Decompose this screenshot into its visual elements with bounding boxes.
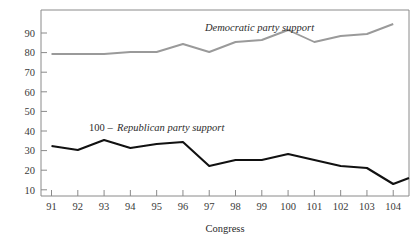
- line-chart-canvas: 90 80 70 60 50 40 30 20 10 9192939495969…: [0, 0, 415, 245]
- x-axis-title: Congress: [205, 223, 244, 234]
- x-axis-tick-labels: 919293949596979899100101102103104: [46, 201, 402, 212]
- y-axis-ticks: [41, 33, 47, 190]
- x-tick-label: 100: [280, 201, 296, 212]
- y-tick-label: 60: [25, 87, 36, 98]
- y-tick-label: 30: [25, 145, 36, 156]
- y-tick-label: 10: [25, 185, 36, 196]
- x-tick-label: 101: [306, 201, 322, 212]
- plot-frame: [41, 10, 409, 196]
- x-tick-label: 96: [178, 201, 189, 212]
- x-tick-label: 102: [333, 201, 349, 212]
- x-axis-ticks: [52, 190, 394, 196]
- x-tick-label: 99: [257, 201, 268, 212]
- x-tick-label: 98: [230, 201, 241, 212]
- y-axis-tick-labels: 90 80 70 60 50 40 30 20 10: [25, 28, 36, 196]
- republican-series-label: 100 – Republican party support: [89, 122, 225, 133]
- x-tick-label: 94: [125, 201, 136, 212]
- x-tick-label: 104: [385, 201, 402, 212]
- y-tick-label: 50: [25, 106, 36, 117]
- republican-series-label-name: Republican party support: [116, 122, 225, 133]
- x-tick-label: 95: [151, 201, 162, 212]
- x-tick-label: 92: [73, 201, 84, 212]
- democratic-series-label: Democratic party support: [204, 22, 315, 33]
- y-tick-label: 20: [25, 165, 36, 176]
- y-tick-label: 90: [25, 28, 36, 39]
- x-tick-label: 103: [359, 201, 375, 212]
- republican-series-label-prefix: 100 –: [89, 122, 113, 133]
- y-tick-label: 70: [25, 67, 36, 78]
- y-tick-label: 40: [25, 126, 36, 137]
- chart-figure: Percent score 90 80 70 60 50 40 30: [0, 0, 415, 245]
- x-tick-label: 93: [99, 201, 110, 212]
- y-tick-label: 80: [25, 47, 36, 58]
- x-tick-label: 91: [46, 201, 57, 212]
- x-tick-label: 97: [204, 201, 215, 212]
- republican-support-line: [52, 140, 409, 184]
